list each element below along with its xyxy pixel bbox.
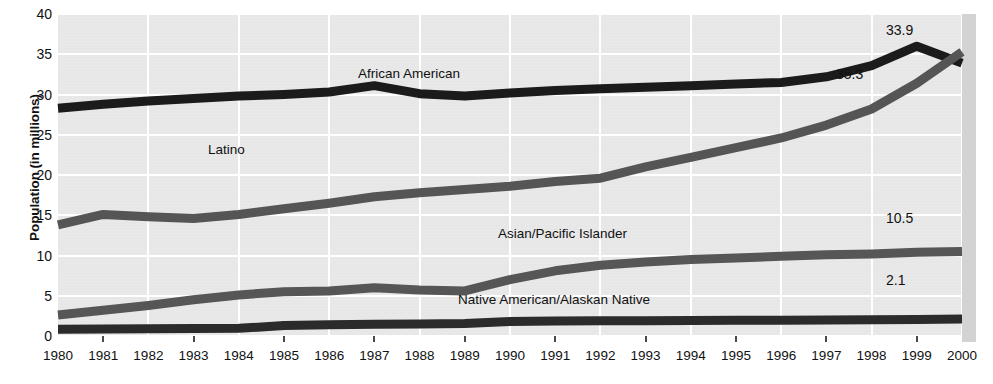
x-axis-tick-mark: [193, 336, 195, 342]
x-axis-tick-label: 1980: [35, 348, 81, 363]
series-name-label: Latino: [208, 142, 245, 157]
x-axis-tick-mark: [283, 336, 285, 342]
x-axis-tick-mark: [825, 336, 827, 342]
x-axis-tick-mark: [554, 336, 556, 342]
x-axis-tick-label: 2000: [939, 348, 985, 363]
x-axis-tick-label: 1992: [577, 348, 623, 363]
x-axis-tick-label: 1983: [171, 348, 217, 363]
x-axis-tick-mark: [735, 336, 737, 342]
series-lines: [0, 0, 993, 384]
series-end-value-label: 35.3: [836, 66, 863, 82]
x-axis-tick-label: 1986: [306, 348, 352, 363]
series-name-label: Native American/Alaskan Native: [458, 292, 650, 307]
x-axis-tick-label: 1990: [487, 348, 533, 363]
population-line-chart: Population (in millions) 051015202530354…: [0, 0, 993, 384]
x-axis-tick-label: 1994: [668, 348, 714, 363]
x-axis-tick-label: 1981: [80, 348, 126, 363]
x-axis-tick-mark: [373, 336, 375, 342]
x-axis-tick-label: 1996: [758, 348, 804, 363]
series-end-value-label: 2.1: [886, 272, 905, 288]
x-axis-tick-label: 1997: [803, 348, 849, 363]
series-line: [58, 46, 962, 108]
x-axis-tick-label: 1987: [351, 348, 397, 363]
x-axis-tick-label: 1998: [849, 348, 895, 363]
x-axis-tick-label: 1988: [397, 348, 443, 363]
x-axis-tick-label: 1991: [532, 348, 578, 363]
series-end-value-label: 10.5: [886, 210, 913, 226]
x-axis-tick-mark: [464, 336, 466, 342]
x-axis-tick-label: 1993: [623, 348, 669, 363]
x-axis-tick-label: 1985: [261, 348, 307, 363]
x-axis-tick-label: 1982: [125, 348, 171, 363]
x-axis-tick-mark: [102, 336, 104, 342]
series-name-label: African American: [358, 66, 460, 81]
series-line: [58, 319, 962, 329]
x-axis-tick-mark: [916, 336, 918, 342]
x-axis-tick-label: 1989: [442, 348, 488, 363]
series-end-value-label: 33.9: [886, 22, 913, 38]
x-axis-tick-label: 1999: [894, 348, 940, 363]
series-name-label: Asian/Pacific Islander: [498, 226, 627, 241]
x-axis-tick-mark: [645, 336, 647, 342]
x-axis-tick-label: 1984: [216, 348, 262, 363]
x-axis-tick-label: 1995: [713, 348, 759, 363]
